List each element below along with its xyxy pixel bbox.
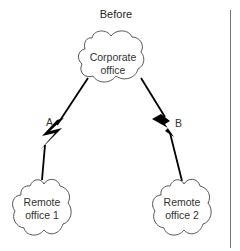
corporate-office-label-line2: office xyxy=(83,64,143,77)
link-a-bolt-icon xyxy=(40,78,88,180)
remote-office-2-label: Remote office 2 xyxy=(154,196,210,222)
vertical-divider xyxy=(230,10,231,248)
link-b-label: B xyxy=(175,117,182,129)
corporate-office-label: Corporate office xyxy=(83,51,143,77)
remote-office-2-label-line1: Remote xyxy=(154,196,210,209)
link-a-label: A xyxy=(46,116,53,128)
link-b-bolt-icon xyxy=(141,78,182,181)
remote-office-1-label-line1: Remote xyxy=(14,196,70,209)
remote-office-2-label-line2: office 2 xyxy=(154,209,210,222)
remote-office-1-label-line2: office 1 xyxy=(14,209,70,222)
remote-office-1-label: Remote office 1 xyxy=(14,196,70,222)
corporate-office-label-line1: Corporate xyxy=(83,51,143,64)
